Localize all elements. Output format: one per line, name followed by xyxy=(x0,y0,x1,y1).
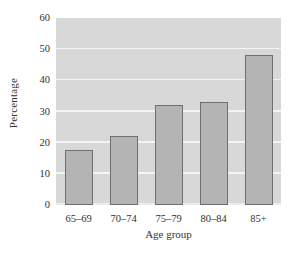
bar[interactable] xyxy=(65,150,93,205)
x-tick-slot: 70–74 xyxy=(101,208,146,224)
y-axis-tick-label: 30 xyxy=(40,106,51,117)
bars-layer xyxy=(56,18,281,205)
y-axis-tick-label: 0 xyxy=(45,200,50,211)
y-axis-tick-label: 40 xyxy=(40,75,51,86)
y-axis-title: Percentage xyxy=(0,0,26,205)
bar-slot xyxy=(146,18,191,205)
x-tick-slot: 65–69 xyxy=(56,208,101,224)
bar-slot xyxy=(56,18,101,205)
bar-slot xyxy=(236,18,281,205)
x-axis-tick-label: 75–79 xyxy=(155,213,181,224)
x-axis-tick-label: 80–84 xyxy=(200,213,226,224)
bar[interactable] xyxy=(200,102,228,205)
bar[interactable] xyxy=(110,136,138,205)
y-axis-tick-label: 50 xyxy=(40,44,51,55)
x-tick-slot: 80–84 xyxy=(191,208,236,224)
x-tick-slot: 85+ xyxy=(236,208,281,224)
bar-slot xyxy=(101,18,146,205)
bar[interactable] xyxy=(245,55,273,205)
x-axis-tick-label: 70–74 xyxy=(110,213,136,224)
bar-chart-figure: Percentage 0102030405060 65–6970–7475–79… xyxy=(0,0,300,253)
plot-area xyxy=(56,18,281,205)
x-axis-title: Age group xyxy=(56,228,281,240)
bar-slot xyxy=(191,18,236,205)
y-axis-tick-labels: 0102030405060 xyxy=(26,18,54,205)
x-axis-tick-label: 85+ xyxy=(250,213,266,224)
x-axis-title-label: Age group xyxy=(145,228,192,240)
y-axis-tick-label: 60 xyxy=(40,13,51,24)
y-axis-title-label: Percentage xyxy=(7,77,19,127)
bar[interactable] xyxy=(155,105,183,205)
y-axis-tick-label: 20 xyxy=(40,137,51,148)
x-axis-tick-label: 65–69 xyxy=(65,213,91,224)
x-axis-tick-labels: 65–6970–7475–7980–8485+ xyxy=(56,208,281,224)
y-axis-tick-label: 10 xyxy=(40,169,51,180)
x-tick-slot: 75–79 xyxy=(146,208,191,224)
